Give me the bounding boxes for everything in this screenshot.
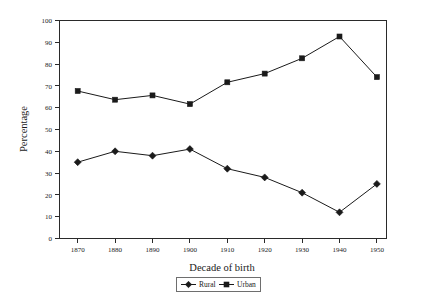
x-tick-label: 1940 <box>333 246 348 254</box>
y-tick-label: 70 <box>45 83 53 91</box>
chart-legend: Rural Urban <box>177 278 261 292</box>
y-axis-title: Percentage <box>18 106 29 152</box>
x-tick-label: 1910 <box>220 246 235 254</box>
data-point-urban <box>374 75 379 80</box>
data-point-urban <box>337 34 342 39</box>
y-tick-label: 100 <box>42 17 53 25</box>
y-tick-label: 30 <box>45 170 53 178</box>
x-tick-label: 1930 <box>295 246 310 254</box>
y-tick-label: 10 <box>45 213 53 221</box>
chart-figure: 0 10 20 30 40 50 <box>0 0 427 302</box>
legend-marker-square-icon <box>224 282 229 287</box>
legend-label-rural: Rural <box>199 280 216 289</box>
y-tick-label: 80 <box>45 61 53 69</box>
x-tick-label: 1870 <box>71 246 86 254</box>
line-chart: 0 10 20 30 40 50 <box>0 0 427 302</box>
x-axis-title: Decade of birth <box>189 262 255 273</box>
data-point-urban <box>300 56 305 61</box>
x-tick-label: 1890 <box>146 246 161 254</box>
x-tick-label: 1900 <box>183 246 198 254</box>
data-point-urban <box>150 93 155 98</box>
data-point-urban <box>113 97 118 102</box>
data-point-urban <box>187 102 192 107</box>
y-tick-label: 60 <box>45 104 53 112</box>
data-point-urban <box>75 89 80 94</box>
y-tick-label: 0 <box>49 235 53 243</box>
x-tick-label: 1880 <box>108 246 123 254</box>
legend-label-urban: Urban <box>237 280 256 289</box>
chart-background <box>0 0 427 302</box>
x-tick-label: 1920 <box>258 246 273 254</box>
y-tick-label: 90 <box>45 39 53 47</box>
x-tick-label: 1950 <box>370 246 385 254</box>
y-tick-label: 50 <box>45 126 53 134</box>
y-tick-label: 40 <box>45 148 53 156</box>
y-tick-label: 20 <box>45 192 53 200</box>
data-point-urban <box>225 80 230 85</box>
data-point-urban <box>262 71 267 76</box>
